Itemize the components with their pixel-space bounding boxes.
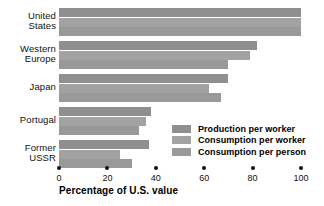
legend-item-label: Production per worker [198, 124, 295, 134]
axis-tick-dot-icon [251, 166, 255, 170]
legend: Production per worker Consumption per wo… [172, 123, 306, 158]
axis-tick-dot-icon [105, 166, 109, 170]
bar [59, 41, 257, 50]
bar [59, 126, 139, 135]
category-label: Japan [30, 82, 56, 93]
category-label: United States [28, 11, 56, 32]
axis-tick-dot-icon [57, 166, 61, 170]
bar-group [59, 74, 301, 103]
bar [59, 84, 209, 93]
axis-tick-label: 80 [248, 173, 258, 183]
axis-tick-label: 100 [293, 173, 308, 183]
bar [59, 93, 221, 102]
legend-swatch-icon [172, 148, 191, 156]
axis-tick-label: 40 [151, 173, 161, 183]
x-axis-title: Percentage of U.S. value [59, 185, 178, 196]
legend-item-label: Consumption per worker [198, 135, 306, 145]
bar [59, 18, 301, 27]
axis-tick-label: 0 [56, 173, 61, 183]
bar-group [59, 8, 301, 37]
category-label: Portugal [20, 115, 56, 126]
bar [59, 8, 301, 17]
legend-swatch-icon [172, 136, 191, 144]
bar [59, 107, 151, 116]
bar [59, 51, 250, 60]
axis-tick-dot-icon [202, 166, 206, 170]
legend-item[interactable]: Consumption per worker [172, 135, 306, 147]
category-label: Former USSR [25, 143, 56, 164]
legend-item-label: Consumption per person [198, 147, 306, 157]
axis-tick-label: 60 [199, 173, 209, 183]
category-label: Western Europe [20, 44, 56, 65]
bar-group [59, 41, 301, 70]
bar [59, 27, 301, 36]
bar-chart: United StatesWestern EuropeJapanPortugal… [0, 0, 324, 206]
bar [59, 74, 228, 83]
legend-item[interactable]: Production per worker [172, 123, 306, 135]
bar [59, 150, 120, 159]
axis-tick-dot-icon [299, 166, 303, 170]
legend-swatch-icon [172, 125, 191, 133]
legend-item[interactable]: Consumption per person [172, 146, 306, 158]
axis-tick-label: 20 [102, 173, 112, 183]
bar [59, 140, 149, 149]
bar [59, 117, 146, 126]
bar [59, 60, 228, 69]
axis-tick-dot-icon [154, 166, 158, 170]
